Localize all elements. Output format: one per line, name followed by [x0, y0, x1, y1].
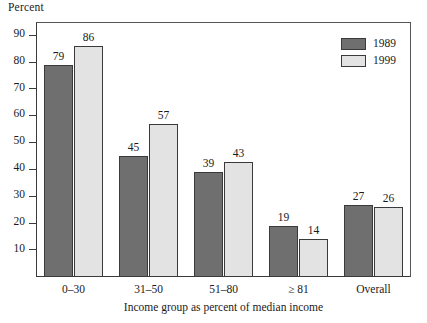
- y-axis-title: Percent: [8, 1, 44, 13]
- y-tick-mark: [29, 62, 36, 63]
- y-tick-mark: [29, 196, 36, 197]
- bar-1989-51–80: [194, 172, 223, 277]
- y-tick-label: 40: [14, 161, 26, 173]
- bar-value-label-1989-0–30: 79: [36, 50, 81, 62]
- y-tick-mark: [29, 35, 36, 36]
- legend-item-1999: 1999: [341, 54, 396, 67]
- y-tick-label: 50: [14, 134, 26, 146]
- y-tick-mark: [29, 115, 36, 116]
- legend: 1989 1999: [341, 37, 396, 71]
- y-tick-label: 20: [14, 215, 26, 227]
- y-tick-mark: [29, 249, 36, 250]
- bar-value-label-1999-0–30: 86: [66, 31, 111, 43]
- legend-swatch-1989-icon: [341, 38, 366, 50]
- y-tick-label: 30: [14, 188, 26, 200]
- bar-1989-31–50: [119, 156, 148, 277]
- bar-value-label-1999-31–50: 57: [141, 109, 186, 121]
- y-tick-label: 90: [14, 27, 26, 39]
- bar-1989-0–30: [44, 65, 73, 277]
- y-tick-label: 60: [14, 107, 26, 119]
- y-tick-mark: [29, 88, 36, 89]
- bar-value-label-1989-≥ 81: 19: [261, 211, 306, 223]
- y-tick-mark: [29, 142, 36, 143]
- legend-label-1989: 1989: [373, 38, 396, 50]
- legend-label-1999: 1999: [373, 55, 396, 67]
- bar-1999-≥ 81: [299, 239, 328, 277]
- y-tick-mark: [29, 223, 36, 224]
- bar-1999-Overall: [374, 207, 403, 277]
- bar-1989-Overall: [344, 205, 373, 277]
- x-axis-title: Income group as percent of median income: [36, 301, 411, 313]
- bar-1999-51–80: [224, 162, 253, 277]
- bar-1999-0–30: [74, 46, 103, 277]
- bar-value-label-1999-≥ 81: 14: [291, 224, 336, 236]
- bar-value-label-1989-31–50: 45: [111, 141, 156, 153]
- y-tick-label: 70: [14, 81, 26, 93]
- bar-value-label-1999-51–80: 43: [216, 147, 261, 159]
- legend-swatch-1999-icon: [341, 55, 366, 67]
- y-tick-label: 80: [14, 54, 26, 66]
- y-tick-label: 10: [14, 242, 26, 254]
- bar-chart-figure: Percent 102030405060708090 7986455739431…: [0, 0, 427, 323]
- legend-item-1989: 1989: [341, 37, 396, 50]
- bar-value-label-1999-Overall: 26: [366, 192, 411, 204]
- bar-value-label-1989-51–80: 39: [186, 157, 231, 169]
- x-category-label-4: Overall: [329, 283, 419, 295]
- y-tick-mark: [29, 169, 36, 170]
